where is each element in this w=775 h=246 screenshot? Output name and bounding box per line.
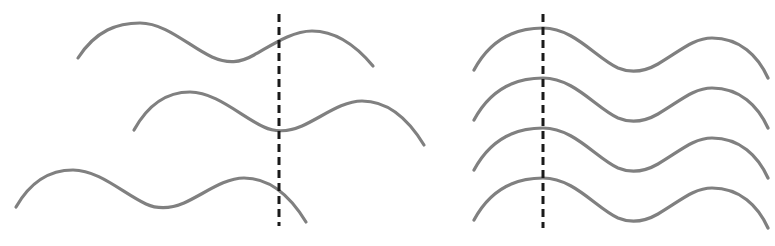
left-panel-unaligned-waveforms — [16, 14, 424, 226]
figure-root — [0, 0, 775, 246]
wave-curve-left-1 — [78, 23, 373, 66]
wave-curve-left-3 — [16, 170, 306, 222]
wave-curve-right-3 — [474, 128, 768, 178]
wave-curve-right-4 — [474, 178, 768, 228]
waveform-figure-canvas — [0, 0, 775, 246]
right-panel-aligned-waveforms — [474, 14, 768, 228]
wave-curve-right-1 — [474, 28, 768, 78]
wave-curve-right-2 — [474, 78, 768, 128]
